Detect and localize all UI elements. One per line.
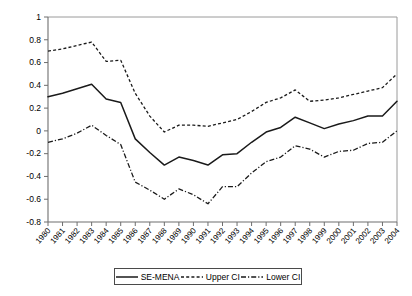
plot-frame [48,17,397,222]
legend-swatch-dashdot [241,273,263,281]
legend-label-se-mena: SE-MENA [141,272,180,282]
x-tick-label: 2001 [339,226,358,246]
chart-legend: SE-MENA Upper CI Lower CI [114,268,302,285]
y-axis-ticks: 10.80.60.40.20-0.2-0.4-0.6-0.8 [26,12,48,227]
x-tick-label: 2002 [354,226,373,246]
x-tick-label: 1997 [281,226,300,246]
x-tick-label: 1980 [34,226,53,246]
x-tick-label: 1986 [121,226,140,246]
x-tick-label: 1995 [252,226,271,246]
legend-label-lower-ci: Lower CI [266,272,300,282]
x-axis-ticks: 1980198119821983198419851986198719881989… [34,222,402,246]
line-chart-canvas: 10.80.60.40.20-0.2-0.4-0.6-0.8 198019811… [0,0,412,296]
x-tick-label: 1999 [310,226,329,246]
legend-item-lower-ci: Lower CI [241,272,300,282]
x-tick-label: 1994 [237,226,256,246]
y-tick-label: 1 [36,12,41,22]
x-tick-label: 1993 [223,226,242,246]
legend-swatch-dashed [181,273,203,281]
x-tick-label: 2003 [368,226,387,246]
y-tick-label: -0.2 [26,148,41,158]
x-tick-label: 1990 [179,226,198,246]
x-tick-label: 1984 [92,226,111,246]
x-tick-label: 1992 [208,226,227,246]
series-line-lower-ci [48,125,397,204]
y-tick-label: 0.4 [29,80,41,90]
series-line-upper-ci [48,42,397,132]
x-tick-label: 1987 [136,226,155,246]
series-line-se-mena [48,84,397,165]
legend-item-se-mena: SE-MENA [116,272,180,282]
x-tick-label: 1981 [48,226,67,246]
legend-swatch-solid [116,273,138,281]
x-tick-label: 1998 [296,226,315,246]
y-tick-label: -0.6 [26,194,41,204]
chart-figure: 10.80.60.40.20-0.2-0.4-0.6-0.8 198019811… [0,0,412,296]
x-tick-label: 1983 [78,226,97,246]
x-tick-label: 1985 [107,226,126,246]
x-tick-label: 1982 [63,226,82,246]
x-tick-label: 2004 [383,226,402,246]
y-tick-label: 0.6 [29,57,41,67]
y-tick-label: 0.2 [29,103,41,113]
x-tick-label: 1989 [165,226,184,246]
x-tick-label: 2000 [325,226,344,246]
y-tick-label: 0.8 [29,35,41,45]
y-tick-label: -0.4 [26,171,41,181]
legend-label-upper-ci: Upper CI [206,272,240,282]
x-tick-label: 1991 [194,226,213,246]
data-series-group [48,42,397,204]
y-tick-label: -0.8 [26,217,41,227]
y-tick-label: 0 [36,126,41,136]
x-tick-label: 1996 [267,226,286,246]
legend-item-upper-ci: Upper CI [181,272,240,282]
x-tick-label: 1988 [150,226,169,246]
